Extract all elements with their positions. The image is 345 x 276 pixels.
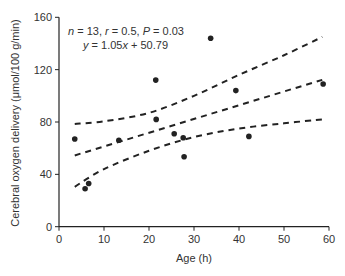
lower-95-ci-line — [75, 119, 323, 186]
data-point — [246, 134, 252, 140]
y-tick-label: 160 — [34, 11, 52, 23]
x-tick-label: 0 — [56, 233, 62, 245]
data-point — [180, 135, 186, 141]
data-points — [72, 35, 326, 191]
y-tick-label: 120 — [34, 64, 52, 76]
axes: 010203040506004080120160 — [34, 11, 335, 244]
chart-canvas: 010203040506004080120160 n = 13, r = 0.5… — [0, 0, 345, 276]
x-tick-label: 10 — [98, 233, 110, 245]
y-tick-label: 0 — [46, 221, 52, 233]
scatter-chart: 010203040506004080120160 n = 13, r = 0.5… — [0, 0, 345, 276]
data-point — [153, 117, 159, 123]
x-tick-label: 50 — [278, 233, 290, 245]
data-point — [181, 154, 187, 160]
x-tick-label: 60 — [323, 233, 335, 245]
stats-annotation: n = 13, r = 0.5, P = 0.03 — [68, 25, 184, 37]
y-axis-label: Cerebral oxygen delivery (μmol/100 g/min… — [9, 19, 21, 226]
data-point — [86, 181, 92, 187]
regression-line — [75, 80, 323, 156]
fit-lines — [75, 37, 323, 187]
data-point — [233, 88, 239, 94]
x-tick-label: 30 — [188, 233, 200, 245]
data-point — [171, 131, 177, 137]
regression-equation: y = 1.05x + 50.79 — [82, 39, 168, 51]
data-point — [153, 77, 159, 83]
data-point — [82, 186, 88, 192]
y-tick-label: 80 — [40, 116, 52, 128]
data-point — [72, 136, 78, 142]
data-point — [320, 81, 326, 87]
x-tick-label: 20 — [143, 233, 155, 245]
x-tick-label: 40 — [233, 233, 245, 245]
data-point — [116, 138, 122, 144]
data-point — [208, 35, 214, 41]
y-tick-label: 40 — [40, 168, 52, 180]
x-axis-label: Age (h) — [176, 252, 212, 264]
